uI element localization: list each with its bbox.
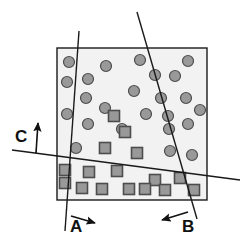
diagram-canvas: A B C — [0, 0, 248, 248]
data-point-circle — [183, 119, 194, 130]
boundary-label-b: B — [182, 217, 194, 236]
data-point-circle — [62, 109, 73, 120]
data-point-circle — [129, 86, 140, 97]
boundary-label-a: A — [70, 217, 82, 236]
data-point-circle — [187, 150, 198, 161]
data-point-square — [112, 166, 123, 177]
data-point-circle — [181, 93, 192, 104]
data-point-square — [100, 143, 111, 154]
data-point-circle — [170, 71, 181, 82]
data-point-circle — [83, 74, 94, 85]
data-point-circle — [81, 93, 92, 104]
data-point-circle — [164, 124, 175, 135]
data-point-circle — [135, 55, 146, 66]
data-point-square — [140, 184, 151, 195]
data-point-square — [120, 127, 131, 138]
data-point-square — [124, 184, 135, 195]
data-point-square — [160, 185, 171, 196]
normal-arrow-icon — [36, 123, 38, 153]
data-point-circle — [183, 56, 194, 67]
data-point-circle — [83, 119, 94, 130]
decision-boundary-diagram: A B C — [0, 0, 248, 248]
data-point-circle — [195, 105, 206, 116]
data-point-square — [109, 111, 120, 122]
data-point-circle — [141, 109, 152, 120]
data-point-square — [84, 167, 95, 178]
data-point-square — [97, 184, 108, 195]
data-point-square — [77, 183, 88, 194]
boundary-label-c: C — [15, 127, 27, 146]
data-point-circle — [71, 143, 82, 154]
data-point-circle — [165, 146, 176, 157]
data-point-circle — [62, 77, 73, 88]
data-point-square — [132, 148, 143, 159]
data-point-circle — [101, 61, 112, 72]
data-point-circle — [64, 57, 75, 68]
